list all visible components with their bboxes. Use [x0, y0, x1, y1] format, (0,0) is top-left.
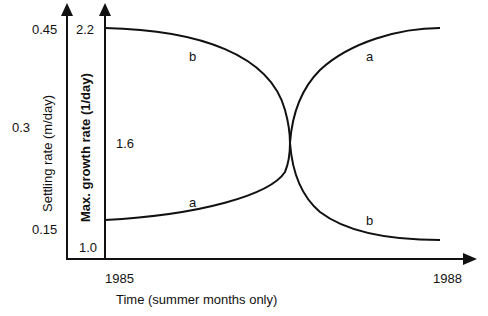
time-axis-arrow-icon — [463, 253, 477, 265]
curves — [105, 28, 440, 240]
y-inner-tick-1.6: 1.6 — [116, 136, 134, 151]
curve-a-right — [290, 28, 440, 143]
curve-label-a-right: a — [366, 49, 374, 64]
y-left-tick-0.15: 0.15 — [32, 222, 57, 237]
settling-rate-axis-arrow-icon — [61, 3, 73, 16]
curve-label-b-left: b — [189, 49, 196, 64]
y-inner-axis-title: Max. growth rate (1/day) — [78, 73, 93, 222]
x-tick-1988: 1988 — [433, 271, 462, 286]
axes — [61, 3, 477, 265]
x-axis-title: Time (summer months only) — [116, 292, 277, 307]
curve-a-left — [105, 143, 290, 220]
curve-label-b-right: b — [366, 213, 373, 228]
curve-b-right — [290, 143, 440, 240]
y-inner-tick-2.2: 2.2 — [76, 22, 94, 37]
curve-b-left — [105, 28, 290, 143]
y-left-tick-0.45: 0.45 — [32, 22, 57, 37]
y-inner-tick-1.0: 1.0 — [79, 240, 97, 255]
growth-rate-axis-arrow-icon — [99, 3, 111, 16]
curve-label-a-left: a — [189, 195, 197, 210]
y-left-axis-title: Settling rate (m/day) — [40, 95, 55, 212]
chart-canvas: b a a b 0.45 0.3 0.15 2.2 1.6 1.0 Settli… — [0, 0, 488, 316]
x-tick-1985: 1985 — [105, 271, 134, 286]
y-left-tick-0.3: 0.3 — [12, 120, 30, 135]
